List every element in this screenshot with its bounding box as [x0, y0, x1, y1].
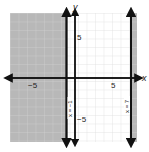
y-tick-neg5: −5: [77, 115, 87, 124]
x-tick-neg5: −5: [28, 81, 38, 90]
line-label-x-neg1: x = −1: [67, 100, 73, 117]
x-axis-label: x: [141, 73, 147, 83]
x-tick-5: 5: [111, 81, 116, 90]
y-tick-5: 5: [77, 33, 82, 42]
y-axis-label: y: [72, 2, 78, 12]
line-label-x-7: x = 7: [124, 99, 130, 113]
coordinate-plane: x y −5 5 5 −5 x = −1 x = 7: [0, 0, 149, 152]
